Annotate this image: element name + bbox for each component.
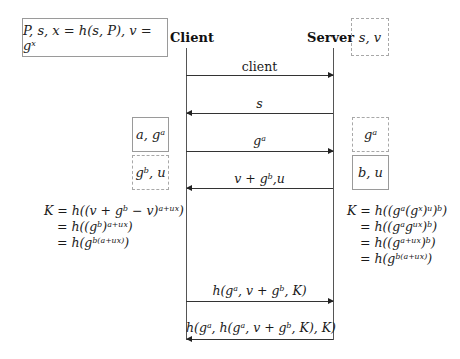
server-key-line-4: = h(gᵇ⁽ᵃ⁺ᵘˣ⁾) [347,251,447,267]
client-key-line-2: = h((gᵇ)ᵃ⁺ᵘˣ) [44,219,184,235]
actor-client: Client [170,30,214,45]
client-ephemeral-text: a, gᵃ [136,127,165,142]
server-ephemeral-box: b, u [352,155,389,190]
server-stored-values-text: s, v [359,30,381,45]
server-key-line-2: = h((gᵃgᵘˣ)ᵇ) [347,219,447,235]
client-received-box: gᵇ, u [132,155,169,190]
message-label-client-proof: h(gᵃ, v + gᵇ, K) [186,283,333,298]
arrowhead-right-icon [328,298,334,304]
message-label-vgb-u: v + gᵇ,u [186,171,333,186]
message-arrow-6 [187,339,333,340]
message-arrow-1 [186,75,333,76]
arrowhead-right-icon [328,72,334,78]
arrowhead-left-icon [186,185,192,191]
arrowhead-left-icon [186,110,192,116]
server-key-line-1: K = h((gᵃ(gˣ)ᵘ)ᵇ) [347,203,447,219]
client-initial-values-box: P, s, x = h(s, P), v = gˣ [22,18,168,57]
message-arrow-3 [186,151,333,152]
actor-server: Server [307,30,354,45]
message-arrow-5 [186,301,333,302]
client-key-derivation: K = h((v + gᵇ − v)ᵃ⁺ᵘˣ) = h((gᵇ)ᵃ⁺ᵘˣ) = … [44,203,184,251]
server-lifeline [333,48,334,340]
message-label-ga: gᵃ [186,133,333,148]
server-stored-values-box: s, v [351,18,389,56]
message-label-client: client [186,59,333,74]
server-ephemeral-text: b, u [358,165,383,180]
client-ephemeral-box: a, gᵃ [132,117,169,152]
server-key-line-3: = h((gᵃ⁺ᵘˣ)ᵇ) [347,235,447,251]
client-initial-values-text: P, s, x = h(s, P), v = gˣ [23,23,167,53]
client-received-text: gᵇ, u [135,165,165,180]
server-key-derivation: K = h((gᵃ(gˣ)ᵘ)ᵇ) = h((gᵃgᵘˣ)ᵇ) = h((gᵃ⁺… [347,203,447,267]
message-arrow-4 [187,188,333,189]
message-label-salt: s [186,96,333,111]
client-key-line-1: K = h((v + gᵇ − v)ᵃ⁺ᵘˣ) [44,203,184,219]
server-received-box: gᵃ [352,117,389,152]
message-arrow-2 [187,113,333,114]
server-received-text: gᵃ [364,127,377,142]
client-key-line-3: = h(gᵇ⁽ᵃ⁺ᵘˣ⁾) [44,235,184,251]
arrowhead-right-icon [328,148,334,154]
message-label-server-proof: h(gᵃ, h(gᵃ, v + gᵇ, K), K) [186,320,333,335]
arrowhead-left-icon [186,336,192,342]
